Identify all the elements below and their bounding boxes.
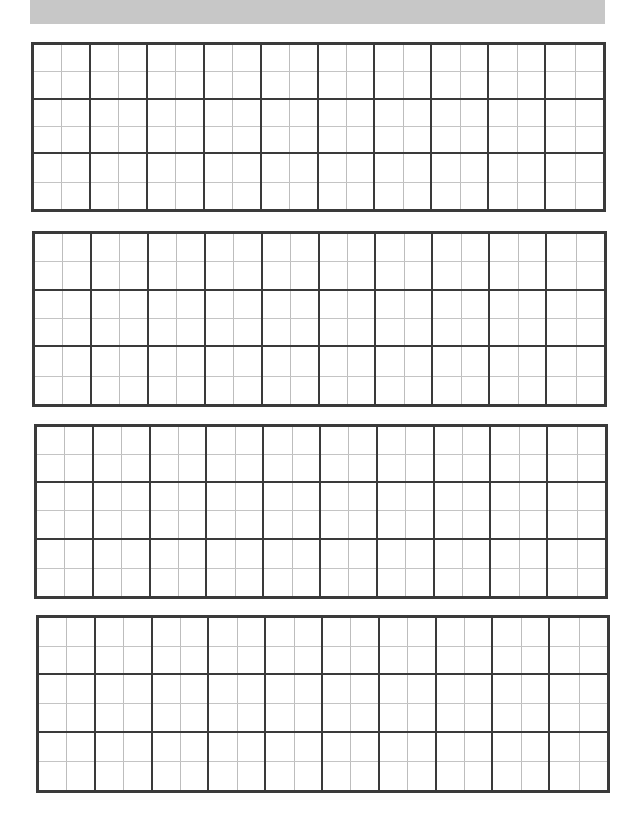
grid-cell — [209, 675, 266, 732]
grid-cell — [435, 540, 492, 596]
grid-cell — [548, 427, 605, 483]
grid-cell — [34, 154, 91, 209]
grid-cell — [376, 234, 433, 291]
grid-cell — [435, 427, 492, 483]
grid-cell — [34, 100, 91, 155]
grid-cell — [96, 733, 153, 790]
grid-cell — [321, 483, 378, 539]
grid-cell — [376, 291, 433, 348]
grid-cell — [550, 618, 607, 675]
grid-cell — [207, 483, 264, 539]
grid-cell — [206, 347, 263, 404]
grid-cell — [263, 291, 320, 348]
grid-cell — [491, 540, 548, 596]
grid-cell — [319, 154, 376, 209]
grid-cell — [92, 234, 149, 291]
grid-cell — [207, 540, 264, 596]
grid-cell — [490, 347, 547, 404]
grid-cell — [39, 618, 96, 675]
grid-cell — [266, 618, 323, 675]
grid-cell — [490, 234, 547, 291]
practice-grid-1 — [31, 42, 606, 212]
grid-cell — [94, 483, 151, 539]
grid-cell — [209, 733, 266, 790]
grid-cell — [375, 100, 432, 155]
grid-cell — [151, 540, 208, 596]
grid-cell — [92, 347, 149, 404]
grid-cell — [264, 540, 321, 596]
grid-cell — [207, 427, 264, 483]
grid-cell — [380, 733, 437, 790]
grid-cell — [266, 733, 323, 790]
grid-cell — [319, 45, 376, 100]
grid-cell — [320, 291, 377, 348]
grid-cell — [548, 540, 605, 596]
grid-cell — [151, 427, 208, 483]
grid-cell — [35, 291, 92, 348]
grid-cell — [94, 540, 151, 596]
grid-cell — [437, 733, 494, 790]
header-banner — [30, 0, 605, 24]
grid-cell — [91, 154, 148, 209]
grid-cell — [550, 733, 607, 790]
grid-cell — [96, 675, 153, 732]
grid-cell — [490, 291, 547, 348]
grid-cell — [548, 483, 605, 539]
grid-cell — [378, 427, 435, 483]
grid-cell — [432, 154, 489, 209]
grid-cell — [489, 100, 546, 155]
grid-cell — [94, 427, 151, 483]
grid-cell — [266, 675, 323, 732]
grid-cell — [37, 540, 94, 596]
grid-cell — [91, 100, 148, 155]
grid-cell — [151, 483, 208, 539]
grid-cell — [376, 347, 433, 404]
grid-cell — [323, 675, 380, 732]
grid-cell — [148, 100, 205, 155]
grid-cell — [547, 234, 604, 291]
grid-cell — [37, 427, 94, 483]
grid-cell — [321, 427, 378, 483]
grid-cell — [432, 45, 489, 100]
grid-cell — [262, 154, 319, 209]
grid-cell — [437, 618, 494, 675]
grid-cell — [319, 100, 376, 155]
grid-cell — [262, 100, 319, 155]
grid-cell — [96, 618, 153, 675]
grid-cell — [149, 291, 206, 348]
grid-cell — [493, 675, 550, 732]
grid-cell — [547, 347, 604, 404]
grid-cell — [205, 154, 262, 209]
grid-cell — [375, 45, 432, 100]
grid-cell — [263, 234, 320, 291]
grid-cell — [205, 45, 262, 100]
grid-cell — [437, 675, 494, 732]
grid-cell — [323, 618, 380, 675]
grid-cell — [205, 100, 262, 155]
grid-cell — [489, 154, 546, 209]
grid-cell — [489, 45, 546, 100]
grid-cell — [153, 618, 210, 675]
grid-cell — [206, 234, 263, 291]
grid-cell — [264, 427, 321, 483]
grid-cell — [433, 234, 490, 291]
grid-cell — [34, 45, 91, 100]
grid-cell — [320, 347, 377, 404]
grid-cell — [262, 45, 319, 100]
grid-cell — [375, 154, 432, 209]
grid-cell — [546, 45, 603, 100]
grid-cell — [378, 483, 435, 539]
grid-cell — [547, 291, 604, 348]
grid-cell — [320, 234, 377, 291]
grid-cell — [153, 733, 210, 790]
grid-cell — [149, 234, 206, 291]
practice-grid-4 — [36, 615, 610, 793]
grid-cell — [263, 347, 320, 404]
grid-cell — [493, 618, 550, 675]
grid-cell — [148, 45, 205, 100]
grid-cell — [550, 675, 607, 732]
grid-cell — [149, 347, 206, 404]
grid-cell — [264, 483, 321, 539]
grid-cell — [491, 427, 548, 483]
grid-cell — [35, 234, 92, 291]
